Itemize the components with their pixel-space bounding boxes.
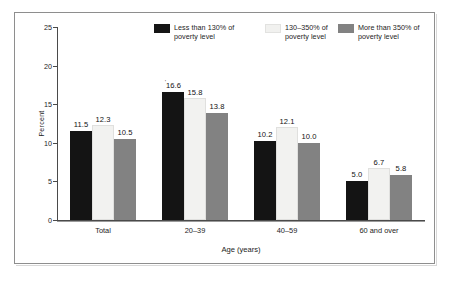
bar-group-1: '16.615.813.8 xyxy=(162,27,228,220)
x-axis-title: Age (years) xyxy=(57,245,425,254)
y-tick-label-0: 0 xyxy=(48,216,52,225)
bar[interactable]: 10.2 xyxy=(254,141,276,220)
bar[interactable]: 12.3 xyxy=(92,125,114,220)
bar-value-text: 10.5 xyxy=(117,128,132,137)
bar-group-2: 10.212.110.0 xyxy=(254,27,320,220)
x-axis-line-shadow xyxy=(57,221,425,222)
bar-value-label: 10.5 xyxy=(117,128,132,137)
bar-value-text: 6.7 xyxy=(374,158,385,167)
x-tick-label-1: 20–39 xyxy=(185,226,206,235)
bar-value-label: 10.0 xyxy=(301,132,316,141)
y-tick-mark-5 xyxy=(53,27,58,28)
bar-value-label: 12.3 xyxy=(95,115,110,124)
bar-value-label: 12.1 xyxy=(279,117,294,126)
bar-value-text: 11.5 xyxy=(74,120,89,129)
y-tick-label-3: 15 xyxy=(44,100,52,109)
bar-value-label: 15.8 xyxy=(187,88,202,97)
bar[interactable]: 12.1 xyxy=(276,127,298,220)
bar-value-text: 15.8 xyxy=(187,88,202,97)
y-tick-mark-0 xyxy=(53,220,58,221)
bar[interactable]: 6.7 xyxy=(368,168,390,220)
y-tick-label-5: 25 xyxy=(44,23,52,32)
y-tick-mark-3 xyxy=(53,104,58,105)
bar[interactable]: 13.8 xyxy=(206,113,228,220)
bar-value-text: 5.0 xyxy=(352,170,363,179)
y-axis-title: Percent xyxy=(28,27,54,220)
bar-value-text: 10.0 xyxy=(301,132,316,141)
bar-value-text: 10.2 xyxy=(257,130,272,139)
y-axis-title-text: Percent xyxy=(38,110,45,136)
bar-value-label: 6.7 xyxy=(374,158,385,167)
bar-value-text: 12.1 xyxy=(279,117,294,126)
x-tick-label-0: Total xyxy=(95,226,111,235)
y-tick-label-1: 5 xyxy=(48,177,52,186)
chart-figure: Less than 130% of poverty level130–350% … xyxy=(0,0,451,283)
y-tick-mark-2 xyxy=(53,143,58,144)
bar[interactable]: 10.5 xyxy=(114,139,136,220)
bar[interactable]: 10.0 xyxy=(298,143,320,220)
bar-value-text: 5.8 xyxy=(396,164,407,173)
bar-value-label: '16.6 xyxy=(165,79,181,90)
bar-value-label: 13.8 xyxy=(209,102,224,111)
bar[interactable]: 15.8 xyxy=(184,98,206,220)
bar-group-0: 11.512.310.5 xyxy=(70,27,136,220)
bar-value-text: 16.6 xyxy=(166,81,181,90)
y-tick-label-4: 20 xyxy=(44,61,52,70)
bar[interactable]: 11.5 xyxy=(70,131,92,220)
plot-area: 051015202511.512.310.5Total'16.615.813.8… xyxy=(57,27,425,220)
x-tick-label-2: 40–59 xyxy=(277,226,298,235)
bar-group-3: 5.06.75.8 xyxy=(346,27,412,220)
bar[interactable]: 5.8 xyxy=(390,175,412,220)
bar-value-label: 10.2 xyxy=(257,130,272,139)
bar-value-label: 5.8 xyxy=(396,164,407,173)
bar[interactable]: '16.6 xyxy=(162,92,184,220)
bar-value-label: 11.5 xyxy=(74,120,89,129)
bar[interactable]: 5.0 xyxy=(346,181,368,220)
bar-value-text: 12.3 xyxy=(95,115,110,124)
bar-value-label: 5.0 xyxy=(352,170,363,179)
y-tick-mark-4 xyxy=(53,66,58,67)
y-axis-line xyxy=(57,27,58,220)
y-tick-mark-1 xyxy=(53,181,58,182)
x-tick-label-3: 60 and over xyxy=(359,226,398,235)
y-tick-label-2: 10 xyxy=(44,138,52,147)
bar-value-text: 13.8 xyxy=(209,102,224,111)
